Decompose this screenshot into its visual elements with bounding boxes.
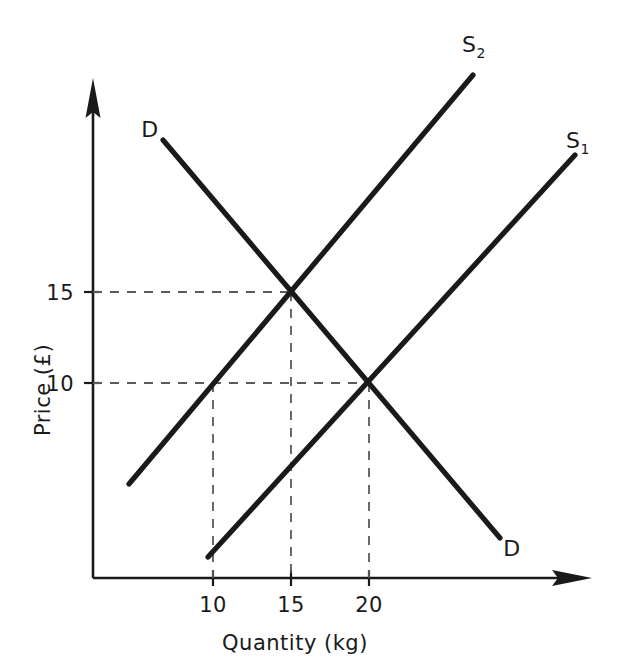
- supply-s1-label-subscript: 1: [581, 141, 590, 157]
- supply-curve-s2: [129, 75, 473, 484]
- demand-label-bottom: D: [503, 536, 520, 561]
- axes-group: [86, 78, 593, 586]
- supply-s1-label: S1: [566, 128, 590, 157]
- supply-s2-label-base: S: [462, 32, 476, 57]
- curves-group: [129, 75, 575, 557]
- x-tick-label-10: 10: [199, 593, 227, 617]
- supply-demand-chart: 15 10 10 15 20 Quantity (kg) Price (£) D…: [0, 0, 625, 662]
- y-axis-title: Price (£): [31, 344, 55, 436]
- y-tick-label-15: 15: [46, 281, 74, 305]
- x-tick-label-20: 20: [355, 593, 383, 617]
- supply-s2-label-subscript: 2: [477, 45, 486, 61]
- x-axis-title: Quantity (kg): [222, 631, 368, 655]
- x-axis-arrow-icon: [552, 570, 592, 586]
- demand-curve: [163, 140, 500, 538]
- supply-curve-s1: [208, 155, 575, 557]
- x-tick-label-15: 15: [277, 593, 305, 617]
- curve-labels-group: D D S2 S1: [141, 32, 590, 561]
- supply-s1-label-base: S: [566, 128, 580, 153]
- axis-tick-labels-group: 15 10 10 15 20: [46, 281, 383, 617]
- y-axis-arrow-icon: [86, 78, 101, 118]
- chart-canvas: 15 10 10 15 20 Quantity (kg) Price (£) D…: [0, 0, 625, 662]
- supply-s2-label: S2: [462, 32, 486, 61]
- demand-label-top: D: [141, 117, 158, 142]
